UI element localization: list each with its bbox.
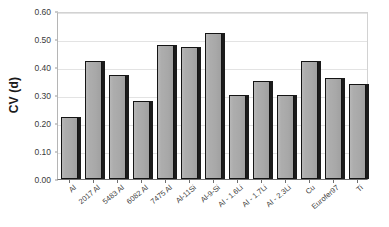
x-axis-tick-label: Al — [72, 179, 83, 190]
bar — [349, 13, 366, 179]
bar — [181, 13, 198, 179]
x-axis-tick-label-text: Ti — [354, 183, 364, 194]
bar — [301, 13, 318, 179]
bar-chart: CV (d) 0.000.100.200.300.400.500.60 Al20… — [0, 0, 389, 227]
bar — [229, 13, 246, 179]
bar — [85, 13, 102, 179]
y-axis-tick-label: 0.30 — [34, 91, 51, 101]
bar-body — [301, 61, 318, 179]
y-axis-tick-label: 0.50 — [34, 35, 51, 45]
y-axis-title-text: CV (d) — [7, 77, 21, 114]
bar — [277, 13, 294, 179]
y-axis-tick-label: 0.60 — [34, 7, 51, 17]
bar — [133, 13, 150, 179]
y-axis-tick-labels: 0.000.100.200.300.400.500.60 — [24, 0, 54, 190]
bar — [61, 13, 78, 179]
bar-body — [133, 101, 150, 179]
bar-body — [205, 33, 222, 179]
bar — [109, 13, 126, 179]
bar-body — [325, 78, 342, 179]
bar — [253, 13, 270, 179]
bar — [325, 13, 342, 179]
bar-body — [181, 47, 198, 179]
x-axis-tick-label-text: Al — [67, 183, 78, 194]
bar-body — [157, 45, 174, 179]
y-axis-tick-label: 0.20 — [34, 119, 51, 129]
bar-body — [61, 117, 78, 179]
bar-body — [85, 61, 102, 179]
bar-series — [58, 13, 367, 179]
plot-area — [57, 12, 368, 180]
bar-body — [229, 95, 246, 179]
x-axis-tick-label-text: Cu — [304, 183, 317, 196]
x-axis-tick-labels: Al2017 Al5483 Al6082 Al7475 AlAl-11SiAl-… — [57, 181, 368, 227]
y-axis-tick-label: 0.10 — [34, 147, 51, 157]
bar-body — [109, 75, 126, 179]
y-axis-title: CV (d) — [2, 0, 26, 190]
y-axis-tick-label: 0.00 — [34, 175, 51, 185]
bar — [157, 13, 174, 179]
x-axis-tick-label: Ti — [359, 179, 369, 190]
y-axis-tick-label: 0.40 — [34, 63, 51, 73]
bar — [205, 13, 222, 179]
